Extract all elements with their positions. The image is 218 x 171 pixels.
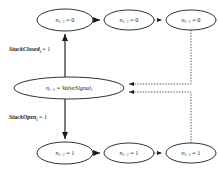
node-middle[interactable]: ni+1 = ValveSignali — [14, 77, 124, 99]
node-middle-value: ValveSignal — [62, 84, 91, 91]
node-bottom-middle[interactable]: ni+1 = 1 — [104, 143, 154, 163]
edge-top-right-to-middle-feedback — [129, 30, 191, 84]
stuck-open-text: StuckOpeni = 1 — [9, 114, 47, 121]
node-top-left-value: 0 — [71, 16, 74, 23]
node-bottom-middle-value: 1 — [135, 149, 138, 156]
stuck-closed-name: StuckClosed — [9, 46, 41, 52]
stuck-closed-text: StuckClosedi = 1 — [9, 46, 50, 53]
node-bottom-right-operator: = — [191, 149, 198, 156]
edge-label-stuck-open: StuckOpeni = 1 — [9, 114, 47, 121]
stuck-closed-value: 1 — [47, 46, 50, 52]
node-bottom-left-operator: = — [65, 149, 72, 156]
node-top-middle-operator: = — [129, 16, 136, 23]
node-top-middle[interactable]: ni+1 = 0 — [104, 10, 154, 30]
node-top-middle-value: 0 — [135, 16, 138, 23]
stuck-open-name: StuckOpen — [9, 114, 37, 120]
node-top-right-value: 0 — [197, 16, 200, 23]
edge-bottom-right-to-middle-feedback — [129, 92, 191, 143]
state-transition-diagram: ni+1 = 0 ni+1 = 0 ni+1 = 0 ni+1 = ValveS… — [0, 0, 218, 171]
node-top-left-operator: = — [65, 16, 72, 23]
edge-label-stuck-closed: StuckClosedi = 1 — [9, 46, 50, 53]
stuck-open-value: 1 — [44, 114, 47, 120]
node-bottom-right[interactable]: ni+1 = 1 — [166, 143, 216, 163]
node-top-right-operator: = — [191, 16, 198, 23]
node-bottom-middle-operator: = — [129, 149, 136, 156]
node-top-right[interactable]: ni+1 = 0 — [166, 10, 216, 30]
node-bottom-left[interactable]: ni+1 = 1 — [37, 142, 93, 164]
node-top-left[interactable]: ni+1 = 0 — [37, 9, 93, 31]
node-bottom-left-value: 1 — [71, 149, 74, 156]
diagram-canvas: ni+1 = 0 ni+1 = 0 ni+1 = 0 ni+1 = ValveS… — [0, 0, 218, 171]
node-bottom-right-value: 1 — [197, 149, 200, 156]
